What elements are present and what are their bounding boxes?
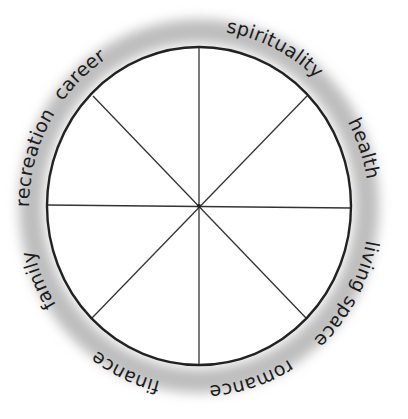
wheel-diagram: career spirituality health living space … [0,0,408,419]
center-dot [197,204,201,208]
